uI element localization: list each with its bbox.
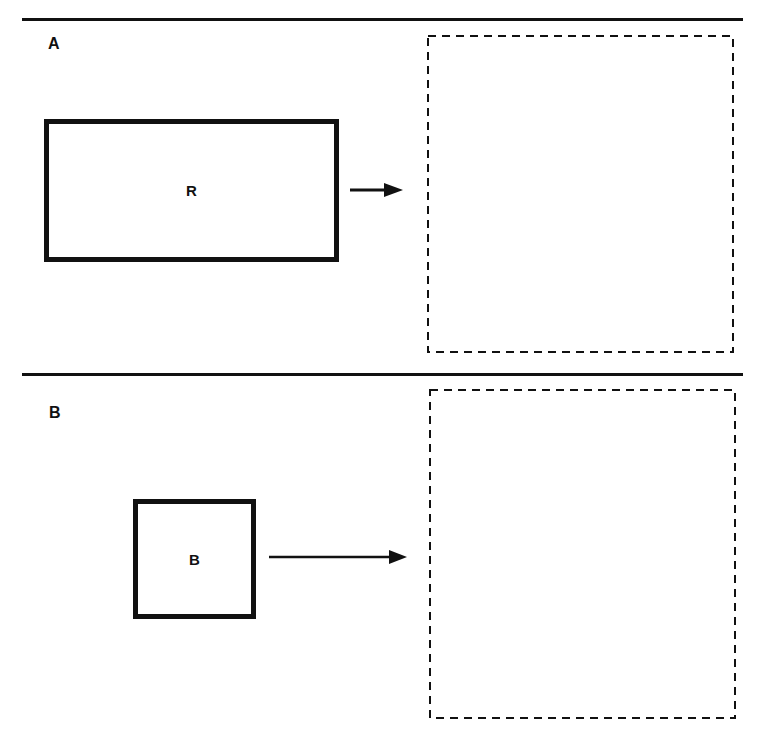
square-b-label: B bbox=[189, 551, 200, 568]
answer-box-b[interactable] bbox=[429, 389, 736, 719]
divider-middle bbox=[22, 373, 743, 376]
divider-top bbox=[22, 18, 743, 21]
panel-b-label: B bbox=[49, 404, 61, 422]
answer-box-a[interactable] bbox=[427, 35, 734, 353]
arrow-right-icon bbox=[269, 547, 409, 567]
panel-a-label: A bbox=[48, 35, 60, 53]
rectangle-r: R bbox=[44, 119, 339, 262]
rectangle-r-label: R bbox=[186, 182, 197, 199]
arrow-right-icon bbox=[350, 180, 405, 200]
square-b: B bbox=[133, 499, 256, 619]
